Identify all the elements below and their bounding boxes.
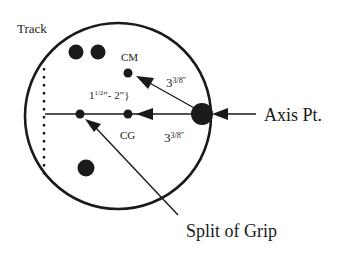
ball-outline [25, 23, 211, 209]
arrow-to-cm-icon [136, 76, 154, 89]
axis-to-cm-distance: 33/8″ [166, 76, 186, 89]
finger-hole-left [69, 45, 84, 60]
finger-hole-right [91, 45, 106, 60]
grip-range-frac: 1/2 [95, 89, 104, 96]
cm-point [124, 69, 133, 78]
axis-to-cm-frac: 3/8″ [173, 76, 187, 85]
axis-to-cg-frac: 3/8″ [171, 131, 185, 140]
arrow-to-cg-icon [136, 108, 153, 120]
diagram-canvas [0, 0, 349, 254]
grip-range-rest: ″- 2″} [103, 89, 129, 101]
cg-point [124, 110, 133, 119]
split-of-grip-label: Split of Grip [186, 222, 277, 240]
axis-label-arrow-icon [212, 108, 228, 120]
cg-label: CG [120, 130, 135, 141]
thumb-hole [78, 160, 95, 177]
axis-to-cg-distance: 33/8″ [164, 131, 184, 144]
split-of-grip-point [76, 110, 85, 119]
track-label: Track [17, 22, 47, 35]
axis-point [191, 103, 213, 125]
cm-label: CM [121, 52, 138, 63]
axis-point-label: Axis Pt. [264, 106, 322, 124]
grip-range-label: 11/2″- 2″} [89, 90, 130, 101]
